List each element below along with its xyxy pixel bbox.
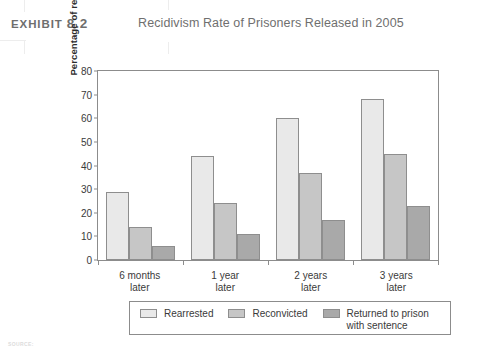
y-axis-tick-label: 30 (68, 184, 92, 195)
bar-group (268, 71, 353, 260)
y-axis-tick-label: 50 (68, 136, 92, 147)
y-axis-tick-label: 80 (68, 66, 92, 77)
bar (237, 234, 260, 260)
x-axis-tick-label: 1 yearlater (183, 270, 269, 300)
x-axis-tick-mark (268, 260, 269, 265)
bar (384, 154, 407, 260)
plot-area: Percentage of released prisoners 0102030… (97, 70, 439, 261)
x-axis-tick-label: 2 yearslater (268, 270, 354, 300)
y-axis-tick-label: 60 (68, 113, 92, 124)
bar-group (183, 71, 268, 260)
chart-legend: RearrestedReconvictedReturned to prison … (129, 301, 451, 335)
bar-group-bars (276, 118, 345, 260)
legend-item: Returned to prison with sentence (323, 308, 429, 331)
x-axis-tick-label: 3 yearslater (354, 270, 440, 300)
bar-group (98, 71, 183, 260)
bar (299, 173, 322, 260)
legend-label: Reconvicted (252, 308, 307, 320)
x-axis-tick-mark (438, 260, 439, 265)
bar-group-bars (191, 156, 260, 260)
chart-container: Percentage of released prisoners 0102030… (0, 55, 496, 295)
bar-group-bars (106, 192, 175, 261)
y-axis-tick-label: 0 (68, 255, 92, 266)
bar (152, 246, 175, 260)
legend-swatch (140, 309, 157, 318)
legend-item: Reconvicted (228, 308, 307, 320)
x-axis-tick-label: 6 monthslater (97, 270, 183, 300)
bar (407, 206, 430, 260)
x-axis-labels: 6 monthslater1 yearlater2 yearslater3 ye… (97, 270, 439, 300)
legend-swatch (228, 309, 245, 318)
x-axis-tick-mark (183, 260, 184, 265)
x-axis-tick-mark (98, 260, 99, 265)
legend-label: Returned to prison with sentence (347, 308, 429, 331)
legend-swatch (323, 309, 340, 318)
exhibit-label-word: Exhibit (11, 18, 63, 30)
bar-group (353, 71, 438, 260)
page-title: Recidivism Rate of Prisoners Released in… (138, 16, 404, 30)
legend-item: Rearrested (140, 308, 213, 320)
bar-group-bars (361, 99, 430, 260)
bar (214, 203, 237, 260)
bar (191, 156, 214, 260)
bar (322, 220, 345, 260)
bar (129, 227, 152, 260)
bar-groups (98, 71, 438, 260)
x-axis-tick-mark (353, 260, 354, 265)
y-axis-tick-label: 40 (68, 160, 92, 171)
bar (361, 99, 384, 260)
source-note: SOURCE: (8, 341, 34, 347)
legend-label: Rearrested (164, 308, 213, 320)
y-axis-tick-label: 70 (68, 89, 92, 100)
y-axis-tick-label: 10 (68, 231, 92, 242)
bar (106, 192, 129, 261)
y-axis-tick-label: 20 (68, 207, 92, 218)
bar (276, 118, 299, 260)
